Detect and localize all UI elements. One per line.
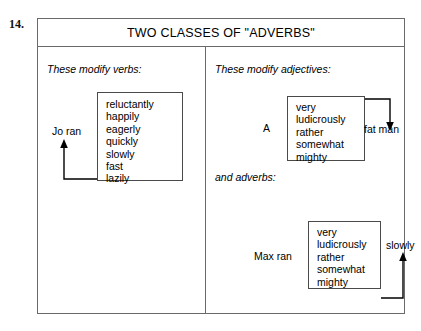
word-box-adjectives: very ludicrously rather somewhat mighty xyxy=(287,96,365,161)
word-item: lazily xyxy=(106,172,182,184)
word-item: ludicrously xyxy=(317,238,380,250)
word-item: very xyxy=(317,226,380,238)
figure-number: 14. xyxy=(9,17,24,32)
word-item: fast xyxy=(106,160,182,172)
figure-title: TWO CLASSES OF "ADVERBS" xyxy=(127,26,315,40)
panel-heading-verbs: These modify verbs: xyxy=(47,63,142,75)
word-item: mighty xyxy=(317,276,380,288)
figure-body: These modify verbs: Jo ran reluctantly h… xyxy=(38,47,404,313)
panel-heading-adverbs: and adverbs: xyxy=(215,171,276,183)
word-list-verbs: reluctantly happily eagerly quickly slow… xyxy=(98,93,182,185)
word-list-adverbs: very ludicrously rather somewhat mighty xyxy=(309,222,380,288)
word-item: rather xyxy=(296,126,364,138)
word-box-verbs: reluctantly happily eagerly quickly slow… xyxy=(97,92,183,181)
word-item: ludicrously xyxy=(296,113,364,125)
panel-verbs: These modify verbs: Jo ran reluctantly h… xyxy=(38,47,205,313)
word-item: reluctantly xyxy=(106,98,182,110)
word-box-adverbs: very ludicrously rather somewhat mighty xyxy=(308,221,381,289)
word-item: eagerly xyxy=(106,123,182,135)
connector-arrow-adverbs xyxy=(381,247,421,303)
figure-frame: TWO CLASSES OF "ADVERBS" These modify ve… xyxy=(37,18,405,314)
word-item: rather xyxy=(317,251,380,263)
label-article-a: A xyxy=(263,122,270,134)
word-item: quickly xyxy=(106,135,182,147)
word-item: somewhat xyxy=(317,263,380,275)
label-fat-man: fat man xyxy=(364,123,399,135)
label-jo-ran: Jo ran xyxy=(52,125,81,137)
word-item: slowly xyxy=(106,148,182,160)
label-max-ran: Max ran xyxy=(254,250,292,262)
word-item: very xyxy=(296,101,364,113)
panel-adjectives-adverbs: These modify adjectives: A very ludicrou… xyxy=(206,47,405,313)
word-item: happily xyxy=(106,110,182,122)
figure-title-band: TWO CLASSES OF "ADVERBS" xyxy=(38,19,404,47)
label-slowly: slowly xyxy=(386,239,415,251)
panel-heading-adjectives: These modify adjectives: xyxy=(215,63,331,75)
word-list-adjectives: very ludicrously rather somewhat mighty xyxy=(288,97,364,163)
word-item: mighty xyxy=(296,151,364,163)
word-item: somewhat xyxy=(296,138,364,150)
